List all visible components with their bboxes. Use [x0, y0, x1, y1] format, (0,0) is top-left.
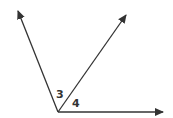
angle-diagram: 3 4	[0, 0, 173, 118]
middle-ray	[58, 15, 126, 112]
angle-label-3: 3	[56, 88, 64, 101]
angle-label-4: 4	[72, 97, 80, 110]
left-ray	[18, 11, 58, 112]
